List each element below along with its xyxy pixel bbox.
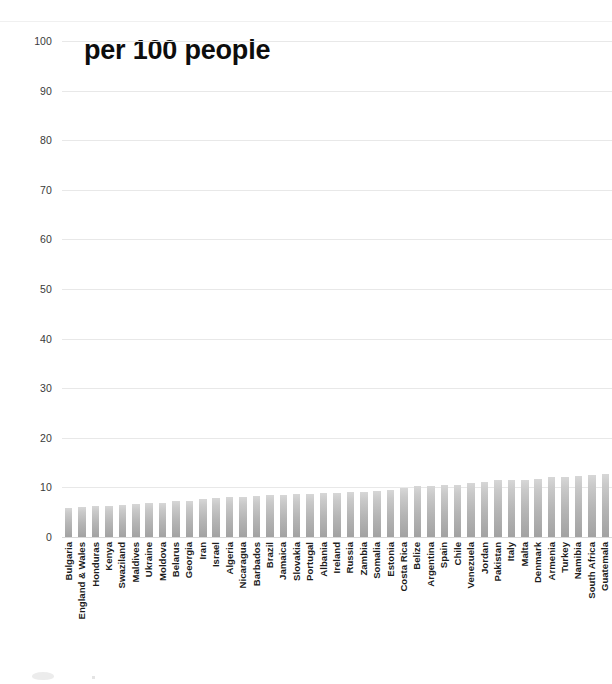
bar[interactable]	[561, 477, 569, 537]
x-axis-label: Namibia	[574, 542, 584, 579]
x-axis-label: Estonia	[386, 542, 396, 577]
bar-slot	[236, 41, 249, 537]
x-label-slot: Brazil	[263, 540, 276, 670]
bar-slot	[344, 41, 357, 537]
x-axis-label: South Africa	[587, 542, 597, 599]
bars-group	[62, 41, 612, 537]
x-label-slot: Spain	[438, 540, 451, 670]
bar[interactable]	[186, 501, 194, 537]
bar-slot	[330, 41, 343, 537]
x-label-slot: Albania	[317, 540, 330, 670]
x-label-slot: Georgia	[183, 540, 196, 670]
x-label-slot: Swaziland	[116, 540, 129, 670]
bar[interactable]	[548, 477, 556, 537]
x-axis-label: Guatemala	[600, 542, 610, 591]
bar[interactable]	[467, 483, 475, 537]
bar[interactable]	[481, 482, 489, 537]
x-axis-category-labels: BulgariaEngland & WalesHondurasKenyaSwaz…	[62, 540, 612, 670]
bar[interactable]	[427, 486, 435, 537]
y-tick-label-40: 40	[10, 334, 52, 345]
x-label-slot: Portugal	[303, 540, 316, 670]
plot-area	[62, 41, 612, 537]
bar[interactable]	[212, 498, 220, 537]
x-label-slot: Israel	[210, 540, 223, 670]
bar[interactable]	[454, 485, 462, 537]
bar[interactable]	[534, 479, 542, 537]
bar[interactable]	[280, 495, 288, 537]
bar-slot	[263, 41, 276, 537]
x-label-slot: Nicaragua	[236, 540, 249, 670]
bar-slot	[277, 41, 290, 537]
bar[interactable]	[132, 504, 140, 537]
x-axis-label: Turkey	[560, 542, 570, 573]
bar-slot	[303, 41, 316, 537]
x-label-slot: Bulgaria	[62, 540, 75, 670]
x-label-slot: Italy	[505, 540, 518, 670]
bar-slot	[210, 41, 223, 537]
bar-slot	[357, 41, 370, 537]
bar[interactable]	[387, 490, 395, 537]
bar[interactable]	[360, 492, 368, 537]
x-label-slot: Kenya	[102, 540, 115, 670]
x-axis-label: Bulgaria	[64, 542, 74, 580]
bar[interactable]	[65, 508, 73, 537]
x-axis-label: Barbados	[252, 542, 262, 586]
bar-slot	[478, 41, 491, 537]
bar[interactable]	[347, 492, 355, 537]
gridline-0	[62, 537, 612, 538]
x-axis-label: England & Wales	[77, 542, 87, 619]
bar[interactable]	[521, 480, 529, 537]
bar-slot	[183, 41, 196, 537]
bar[interactable]	[508, 480, 516, 537]
x-label-slot: Jamaica	[277, 540, 290, 670]
bar[interactable]	[78, 507, 86, 537]
x-label-slot: Iran	[196, 540, 209, 670]
bar-slot	[250, 41, 263, 537]
bar[interactable]	[400, 488, 408, 537]
bar[interactable]	[92, 506, 100, 537]
bar-slot	[397, 41, 410, 537]
chart-container: per 100 people 0102030405060708090100 Bu…	[0, 0, 612, 684]
bar[interactable]	[320, 493, 328, 537]
x-axis-label: Armenia	[547, 542, 557, 580]
bar[interactable]	[333, 493, 341, 537]
bar[interactable]	[373, 491, 381, 537]
x-label-slot: Algeria	[223, 540, 236, 670]
bar[interactable]	[253, 496, 261, 537]
x-label-slot: Honduras	[89, 540, 102, 670]
bar-slot	[169, 41, 182, 537]
bar[interactable]	[119, 505, 127, 537]
x-axis-label: Georgia	[185, 542, 195, 578]
bar-slot	[491, 41, 504, 537]
y-tick-label-90: 90	[10, 86, 52, 97]
x-axis-label: Costa Rica	[399, 542, 409, 592]
bar[interactable]	[226, 497, 234, 537]
x-label-slot: Denmark	[532, 540, 545, 670]
bar[interactable]	[306, 494, 314, 537]
bar[interactable]	[602, 474, 610, 537]
x-label-slot: South Africa	[585, 540, 598, 670]
bar[interactable]	[441, 485, 449, 537]
x-axis-label: Slovakia	[292, 542, 302, 581]
bar[interactable]	[414, 486, 422, 537]
bar[interactable]	[239, 497, 247, 537]
bar[interactable]	[105, 506, 113, 537]
bar[interactable]	[266, 495, 274, 537]
x-axis-label: Chile	[453, 542, 463, 565]
x-label-slot: Barbados	[250, 540, 263, 670]
bar-slot	[371, 41, 384, 537]
bar[interactable]	[293, 494, 301, 537]
x-label-slot: Estonia	[384, 540, 397, 670]
bar[interactable]	[199, 499, 207, 537]
bar[interactable]	[172, 501, 180, 537]
x-label-slot: Jordan	[478, 540, 491, 670]
y-tick-label-60: 60	[10, 234, 52, 245]
bar[interactable]	[575, 476, 583, 537]
bar[interactable]	[159, 503, 167, 537]
top-divider	[0, 21, 612, 22]
bar[interactable]	[494, 480, 502, 537]
x-label-slot: Belarus	[169, 540, 182, 670]
bar[interactable]	[588, 475, 596, 537]
bar[interactable]	[145, 503, 153, 537]
bar-slot	[572, 41, 585, 537]
